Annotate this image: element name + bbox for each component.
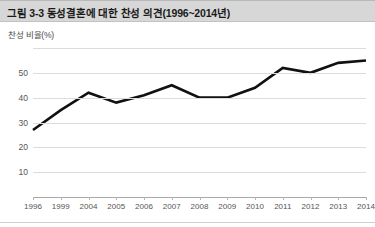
x-axis-tick-2008: 2008 (191, 203, 209, 211)
x-axis-tick-2005: 2005 (107, 203, 125, 211)
x-axis-tick-2006: 2006 (135, 203, 153, 211)
x-tick-mark-2007 (172, 197, 173, 200)
x-axis-tick-2009: 2009 (218, 203, 236, 211)
x-axis-tick-2007: 2007 (163, 203, 181, 211)
y-axis-tick-50: 50 (19, 69, 28, 78)
x-axis-tick-1999: 1999 (52, 203, 70, 211)
x-tick-mark-1996 (33, 197, 34, 200)
x-tick-mark-2012 (311, 197, 312, 200)
x-tick-mark-2008 (200, 197, 201, 200)
x-tick-mark-2005 (116, 197, 117, 200)
gridline-10 (33, 172, 366, 173)
y-axis-tick-10: 10 (19, 168, 28, 177)
x-tick-mark-1999 (61, 197, 62, 200)
gridline-60 (33, 48, 366, 49)
x-tick-mark-2013 (338, 197, 339, 200)
x-axis-tick-2004: 2004 (80, 203, 98, 211)
figure-bottom-rule (0, 222, 375, 223)
series-polyline (33, 60, 366, 130)
y-axis-tick-40: 40 (19, 93, 28, 102)
x-tick-mark-2006 (144, 197, 145, 200)
x-tick-mark-2009 (227, 197, 228, 200)
x-axis-tick-1996: 1996 (24, 203, 42, 211)
y-axis-label: 찬성 비율(%) (8, 28, 54, 40)
plot-area: 1020304050 (33, 48, 366, 197)
x-tick-mark-2014 (366, 197, 367, 200)
gridline-40 (33, 98, 366, 99)
gridline-30 (33, 123, 366, 124)
x-axis-tick-2012: 2012 (302, 203, 320, 211)
chart-title: 그림 3-3 동성결혼에 대한 찬성 의견(1996~2014년) (7, 5, 230, 20)
x-tick-mark-2004 (89, 197, 90, 200)
y-axis-tick-20: 20 (19, 143, 28, 152)
x-axis-tick-2011: 2011 (274, 203, 291, 211)
x-axis-tick-2010: 2010 (246, 203, 264, 211)
x-axis-tick-2013: 2013 (329, 203, 347, 211)
y-axis-tick-30: 30 (19, 118, 28, 127)
gridline-50 (33, 73, 366, 74)
title-band: 그림 3-3 동성결혼에 대한 찬성 의견(1996~2014년) (0, 0, 375, 22)
x-tick-mark-2010 (255, 197, 256, 200)
gridline-20 (33, 147, 366, 148)
x-axis-tick-2014: 2014 (357, 203, 375, 211)
figure-container: 그림 3-3 동성결혼에 대한 찬성 의견(1996~2014년) 찬성 비율(… (0, 0, 375, 227)
x-tick-mark-2011 (283, 197, 284, 200)
